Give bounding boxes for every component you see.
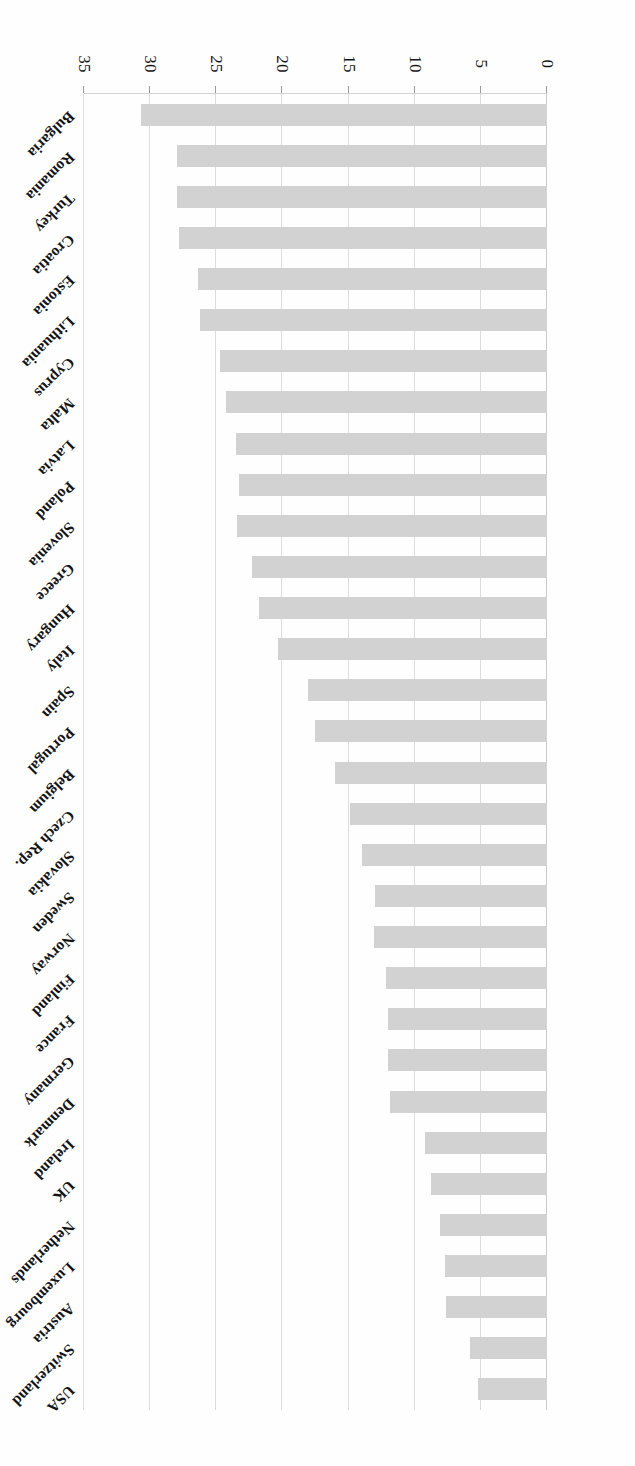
tick-label-10: 10 <box>405 44 425 84</box>
bar-slot <box>84 382 547 423</box>
bar-hungary[interactable] <box>259 597 547 619</box>
bar-greece[interactable] <box>252 556 547 578</box>
bar-slot <box>84 1287 547 1328</box>
bar-slot <box>84 752 547 793</box>
bar-italy[interactable] <box>278 638 547 660</box>
bar-luxembourg[interactable] <box>445 1255 547 1277</box>
bar-uk[interactable] <box>431 1173 547 1195</box>
bar-slot <box>84 1369 547 1410</box>
bar-slot <box>84 135 547 176</box>
bar-netherlands[interactable] <box>440 1214 547 1236</box>
tick-label-5: 5 <box>471 44 491 84</box>
bar-slot <box>84 629 547 670</box>
bar-belgium[interactable] <box>335 762 547 784</box>
bar-bulgaria[interactable] <box>141 104 547 126</box>
bar-slot <box>84 1328 547 1369</box>
bar-slot <box>84 546 547 587</box>
category-label-croatia: Croatia <box>29 231 78 280</box>
category-label-uk: UK <box>49 1176 78 1205</box>
bar-slot <box>84 917 547 958</box>
bar-slot <box>84 588 547 629</box>
bar-croatia[interactable] <box>179 227 547 249</box>
category-label-italy: Italy <box>43 642 78 677</box>
bar-slot <box>84 94 547 135</box>
bar-portugal[interactable] <box>316 720 548 742</box>
bar-slot <box>84 176 547 217</box>
bar-ireland[interactable] <box>425 1132 547 1154</box>
bar-slot <box>84 300 547 341</box>
category-label-latvia: Latvia <box>35 436 79 480</box>
bar-chart: 05101520253035 BulgariaRomaniaTurkeyCroa… <box>37 56 547 1410</box>
bar-slovakia[interactable] <box>362 844 547 866</box>
category-label-finland: Finland <box>29 971 79 1021</box>
bar-slot <box>84 423 547 464</box>
bar-slot <box>84 464 547 505</box>
tick-label-0: 0 <box>537 44 557 84</box>
bar-lithuania[interactable] <box>200 309 547 331</box>
bar-sweden[interactable] <box>375 885 547 907</box>
tick-0 <box>546 86 547 93</box>
bar-slot <box>84 1246 547 1287</box>
tick-5 <box>480 86 481 93</box>
tick-label-15: 15 <box>339 44 359 84</box>
bar-slot <box>84 1163 547 1204</box>
bar-slot <box>84 711 547 752</box>
plot-area <box>84 94 547 1410</box>
bar-switzerland[interactable] <box>470 1337 547 1359</box>
bar-slot <box>84 259 547 300</box>
category-label-estonia: Estonia <box>30 272 79 321</box>
tick-30 <box>149 86 150 93</box>
bar-slot <box>84 999 547 1040</box>
bar-latvia[interactable] <box>236 433 547 455</box>
tick-10 <box>414 86 415 93</box>
bar-slot <box>84 1122 547 1163</box>
tick-label-20: 20 <box>272 44 292 84</box>
bar-slot <box>84 834 547 875</box>
bar-cyprus[interactable] <box>220 350 547 372</box>
tick-20 <box>281 86 282 93</box>
bar-slot <box>84 341 547 382</box>
tick-15 <box>348 86 349 93</box>
bar-estonia[interactable] <box>198 268 547 290</box>
bar-series <box>84 94 547 1410</box>
bar-slot <box>84 875 547 916</box>
bar-austria[interactable] <box>446 1296 547 1318</box>
category-label-slovenia: Slovenia <box>25 518 78 571</box>
category-label-spain: Spain <box>38 683 78 723</box>
bar-germany[interactable] <box>388 1049 547 1071</box>
category-label-usa: USA <box>43 1382 78 1417</box>
bar-slot <box>84 1204 547 1245</box>
tick-label-25: 25 <box>206 44 226 84</box>
bar-france[interactable] <box>388 1008 547 1030</box>
bar-denmark[interactable] <box>390 1091 547 1113</box>
bar-slot <box>84 1040 547 1081</box>
bar-poland[interactable] <box>239 474 547 496</box>
tick-35 <box>83 86 84 93</box>
bar-slot <box>84 1081 547 1122</box>
category-label-norway: Norway <box>28 930 78 980</box>
bar-malta[interactable] <box>226 391 547 413</box>
tick-label-30: 30 <box>140 44 160 84</box>
bar-norway[interactable] <box>374 926 547 948</box>
bar-romania[interactable] <box>177 145 547 167</box>
rotated-figure-wrapper: 05101520253035 BulgariaRomaniaTurkeyCroa… <box>0 0 635 1466</box>
bar-czech-rep[interactable] <box>350 803 547 825</box>
bar-slovenia[interactable] <box>237 515 547 537</box>
bar-slot <box>84 217 547 258</box>
bar-spain[interactable] <box>308 679 547 701</box>
bar-turkey[interactable] <box>177 186 547 208</box>
tick-label-35: 35 <box>74 44 94 84</box>
category-label-poland: Poland <box>32 477 78 523</box>
bar-slot <box>84 793 547 834</box>
bar-slot <box>84 670 547 711</box>
bar-finland[interactable] <box>386 967 547 989</box>
bar-slot <box>84 505 547 546</box>
bar-slot <box>84 958 547 999</box>
tick-25 <box>215 86 216 93</box>
bar-usa[interactable] <box>478 1378 547 1400</box>
